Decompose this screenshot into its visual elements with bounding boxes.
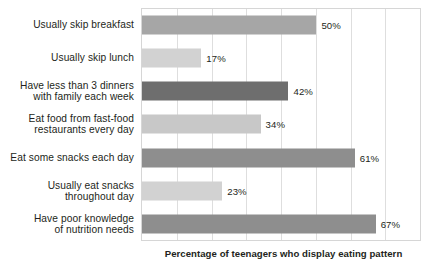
- x-axis-title: Percentage of teenagers who display eati…: [141, 248, 426, 259]
- category-label: Have poor knowledgeof nutrition needs: [0, 213, 134, 236]
- bar-value-label: 61%: [360, 152, 380, 163]
- category-label-line1: Usually skip breakfast: [33, 19, 134, 30]
- category-label-line1: Eat some snacks each day: [10, 152, 134, 163]
- category-label: Eat some snacks each day: [0, 152, 134, 163]
- bar-value-label: 67%: [381, 219, 401, 230]
- category-label-line1: Eat food from fast-food: [29, 113, 134, 124]
- bar-track: 23%: [142, 182, 247, 201]
- bar[interactable]: [142, 48, 201, 67]
- bar[interactable]: [142, 182, 222, 201]
- bar[interactable]: [142, 215, 376, 234]
- bar-row: Usually skip lunch17%: [0, 41, 430, 74]
- bar-track: 17%: [142, 48, 226, 67]
- category-label: Have less than 3 dinnerswith family each…: [0, 80, 134, 103]
- bar-value-label: 42%: [293, 86, 313, 97]
- bar-value-label: 34%: [266, 119, 286, 130]
- category-label: Usually eat snacksthroughout day: [0, 180, 134, 203]
- bar-value-label: 23%: [227, 186, 247, 197]
- category-label-line2: of nutrition needs: [0, 224, 134, 235]
- bar-track: 50%: [142, 15, 341, 34]
- category-label: Usually skip breakfast: [0, 19, 134, 30]
- bar-row: Have poor knowledgeof nutrition needs67%: [0, 208, 430, 241]
- category-label-line2: with family each week: [0, 91, 134, 102]
- category-label-line1: Usually skip lunch: [51, 52, 134, 63]
- bar-value-label: 50%: [321, 19, 341, 30]
- bar[interactable]: [142, 82, 288, 101]
- bar-row: Eat food from fast-foodrestaurants every…: [0, 108, 430, 141]
- bar-row: Usually eat snacksthroughout day23%: [0, 174, 430, 207]
- bar-value-label: 17%: [206, 52, 226, 63]
- bar-track: 67%: [142, 215, 400, 234]
- category-label: Usually skip lunch: [0, 52, 134, 63]
- category-label-line1: Usually eat snacks: [48, 180, 134, 191]
- bar-row: Usually skip breakfast50%: [0, 8, 430, 41]
- bar-chart: Usually skip breakfast50%Usually skip lu…: [0, 0, 430, 272]
- category-label-line1: Have poor knowledge: [34, 213, 134, 224]
- bar-rows: Usually skip breakfast50%Usually skip lu…: [0, 8, 430, 241]
- bar-track: 42%: [142, 82, 313, 101]
- bar-track: 34%: [142, 115, 285, 134]
- category-label-line2: restaurants every day: [0, 124, 134, 135]
- category-label-line2: throughout day: [0, 191, 134, 202]
- bar[interactable]: [142, 15, 316, 34]
- bar-row: Have less than 3 dinnerswith family each…: [0, 75, 430, 108]
- bar[interactable]: [142, 115, 261, 134]
- bar-track: 61%: [142, 148, 379, 167]
- category-label-line1: Have less than 3 dinners: [20, 80, 134, 91]
- category-label: Eat food from fast-foodrestaurants every…: [0, 113, 134, 136]
- bar[interactable]: [142, 148, 355, 167]
- bar-row: Eat some snacks each day61%: [0, 141, 430, 174]
